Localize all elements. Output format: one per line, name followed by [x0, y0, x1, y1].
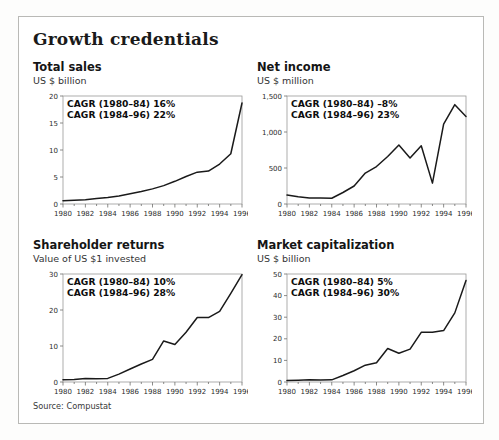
- chart-title: Total sales: [33, 61, 248, 74]
- svg-text:1994: 1994: [435, 210, 453, 218]
- svg-text:1990: 1990: [390, 210, 408, 218]
- svg-text:1988: 1988: [144, 210, 162, 218]
- svg-text:30: 30: [49, 271, 58, 279]
- svg-text:1984: 1984: [99, 388, 117, 396]
- svg-text:1994: 1994: [435, 388, 453, 396]
- svg-text:1984: 1984: [99, 210, 117, 218]
- chart-title: Market capitalization: [257, 239, 472, 252]
- svg-text:1986: 1986: [345, 210, 363, 218]
- svg-text:1992: 1992: [188, 210, 206, 218]
- svg-text:5: 5: [54, 174, 58, 182]
- svg-text:1982: 1982: [300, 388, 318, 396]
- svg-text:50: 50: [273, 271, 282, 279]
- svg-text:1992: 1992: [412, 388, 430, 396]
- svg-text:1982: 1982: [300, 210, 318, 218]
- chart-block-market-capitalization: Market capitalization US $ billion 01020…: [257, 239, 472, 398]
- svg-text:1990: 1990: [390, 388, 408, 396]
- svg-text:1990: 1990: [166, 388, 184, 396]
- svg-text:10: 10: [273, 357, 282, 365]
- svg-text:1986: 1986: [345, 388, 363, 396]
- svg-text:20: 20: [49, 307, 58, 315]
- plot-area: 0102030405019801982198419861988199019921…: [257, 270, 472, 398]
- source-note: Source: Compustat: [33, 401, 111, 411]
- svg-text:1996: 1996: [457, 388, 472, 396]
- svg-text:1986: 1986: [121, 210, 139, 218]
- svg-text:1994: 1994: [211, 388, 229, 396]
- svg-text:1988: 1988: [368, 210, 386, 218]
- plot-area: 0102030198019821984198619881990199219941…: [33, 270, 248, 398]
- svg-text:1984: 1984: [323, 388, 341, 396]
- svg-text:1984: 1984: [323, 210, 341, 218]
- svg-text:1980: 1980: [278, 210, 296, 218]
- plot-area: 0510152019801982198419861988199019921994…: [33, 92, 248, 220]
- svg-text:20: 20: [49, 93, 58, 101]
- svg-text:1982: 1982: [76, 388, 94, 396]
- svg-text:1990: 1990: [166, 210, 184, 218]
- line-chart-svg: 05001,0001,50019801982198419861988199019…: [257, 92, 472, 220]
- line-chart-svg: 0102030405019801982198419861988199019921…: [257, 270, 472, 398]
- chart-subtitle: Value of US $1 invested: [33, 253, 248, 265]
- svg-text:20: 20: [273, 335, 282, 343]
- exhibit-panel: Growth credentials Total sales US $ bill…: [18, 16, 484, 424]
- svg-text:1986: 1986: [121, 388, 139, 396]
- chart-subtitle: US $ billion: [257, 253, 472, 265]
- svg-text:0: 0: [278, 379, 282, 387]
- line-chart-svg: 0102030198019821984198619881990199219941…: [33, 270, 248, 398]
- svg-text:1988: 1988: [144, 388, 162, 396]
- svg-text:40: 40: [273, 292, 282, 300]
- svg-text:1982: 1982: [76, 210, 94, 218]
- svg-text:1996: 1996: [233, 210, 248, 218]
- page-root: Growth credentials Total sales US $ bill…: [0, 0, 499, 440]
- svg-text:1980: 1980: [54, 388, 72, 396]
- line-chart-svg: 0510152019801982198419861988199019921994…: [33, 92, 248, 220]
- chart-block-total-sales: Total sales US $ billion 051015201980198…: [33, 61, 248, 220]
- svg-text:15: 15: [49, 120, 58, 128]
- svg-text:1980: 1980: [54, 210, 72, 218]
- svg-text:10: 10: [49, 343, 58, 351]
- plot-area: 05001,0001,50019801982198419861988199019…: [257, 92, 472, 220]
- svg-text:30: 30: [273, 314, 282, 322]
- chart-title: Net income: [257, 61, 472, 74]
- svg-text:1,000: 1,000: [262, 129, 282, 137]
- svg-text:1996: 1996: [233, 388, 248, 396]
- svg-text:1996: 1996: [457, 210, 472, 218]
- svg-text:1,500: 1,500: [262, 93, 282, 101]
- chart-subtitle: US $ billion: [33, 75, 248, 87]
- svg-text:0: 0: [54, 379, 58, 387]
- svg-text:1992: 1992: [412, 210, 430, 218]
- page-title: Growth credentials: [33, 29, 219, 49]
- svg-text:0: 0: [278, 201, 282, 209]
- svg-text:1988: 1988: [368, 388, 386, 396]
- svg-text:500: 500: [269, 165, 282, 173]
- chart-block-net-income: Net income US $ million 05001,0001,50019…: [257, 61, 472, 220]
- chart-subtitle: US $ million: [257, 75, 472, 87]
- svg-text:1980: 1980: [278, 388, 296, 396]
- chart-block-shareholder-returns: Shareholder returns Value of US $1 inves…: [33, 239, 248, 398]
- svg-text:0: 0: [54, 201, 58, 209]
- svg-text:10: 10: [49, 147, 58, 155]
- chart-title: Shareholder returns: [33, 239, 248, 252]
- svg-text:1994: 1994: [211, 210, 229, 218]
- svg-text:1992: 1992: [188, 388, 206, 396]
